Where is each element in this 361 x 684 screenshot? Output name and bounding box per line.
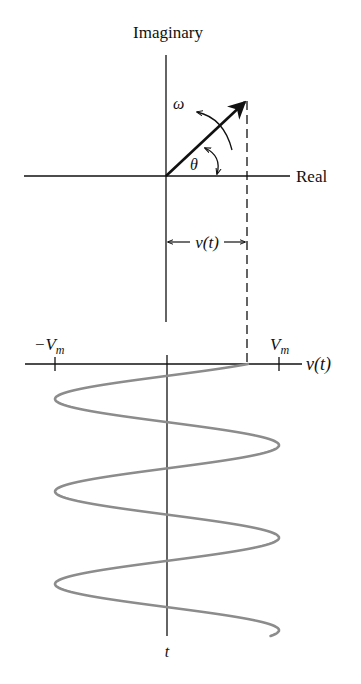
omega-label: ω [173,95,184,112]
neg-vm-label: −Vm [34,335,65,357]
phasor-arrow [166,102,245,176]
complex-plane: Imaginary Real ω θ v(t) [24,23,327,364]
phasor-diagram: Imaginary Real ω θ v(t) −Vm Vm v(t) t [0,0,361,684]
projection-label: v(t) [195,233,219,252]
time-plot: −Vm Vm v(t) t [25,335,331,660]
imaginary-axis-label: Imaginary [133,23,203,42]
theta-label: θ [190,156,198,173]
pos-vm-label: Vm [270,335,289,357]
time-axis-label: t [165,643,170,660]
angle-arc-icon [205,148,218,174]
value-axis-label: v(t) [306,354,331,375]
real-axis-label: Real [296,167,327,186]
